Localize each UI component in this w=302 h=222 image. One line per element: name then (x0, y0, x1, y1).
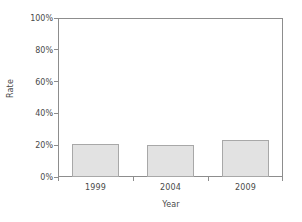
plot-area (58, 18, 283, 177)
x-axis-title: Year (58, 200, 284, 209)
x-tick-label: 2009 (235, 183, 256, 192)
x-axis-ticks (58, 177, 283, 182)
y-tick-label: 60% (35, 77, 58, 86)
x-tick-label: 2004 (160, 183, 181, 192)
x-tick-mark (282, 177, 283, 181)
x-tick-mark (58, 177, 59, 181)
y-tick-label: 40% (35, 109, 58, 118)
y-axis-title: Rate (4, 0, 18, 177)
y-tick-label: 100% (30, 14, 58, 23)
x-tick-mark (133, 177, 134, 181)
y-tick-label: 0% (40, 173, 58, 182)
bar-chart: Rate 0%20%40%60%80%100% 199920042009 Yea… (0, 0, 302, 222)
x-axis-labels: 199920042009 (58, 183, 283, 197)
y-tick-label: 80% (35, 45, 58, 54)
x-tick-label: 1999 (85, 183, 106, 192)
y-tick-label: 20% (35, 141, 58, 150)
y-axis-title-text: Rate (7, 79, 16, 98)
x-tick-mark (208, 177, 209, 181)
